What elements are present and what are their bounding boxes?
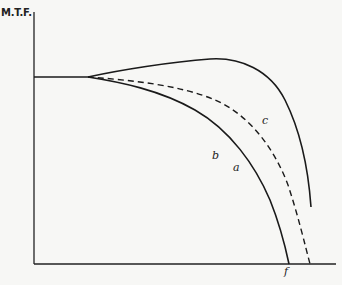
curve-c xyxy=(88,59,311,207)
curve-label-b: b xyxy=(212,149,219,162)
curve-label-a: a xyxy=(233,161,240,174)
mtf-chart xyxy=(0,0,342,285)
curve-a xyxy=(88,77,310,264)
x-tick-f: f xyxy=(284,265,288,278)
y-axis-label: M.T.F. xyxy=(1,7,32,18)
curve-b xyxy=(88,77,289,264)
curve-label-c: c xyxy=(262,114,268,127)
